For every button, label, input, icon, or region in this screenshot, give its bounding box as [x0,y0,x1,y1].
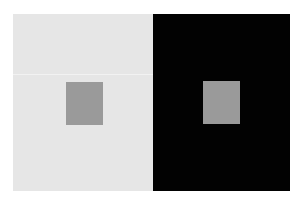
cropped-caption [40,0,270,5]
gray-swatch-on-dark [203,81,240,124]
light-background-panel [13,14,153,191]
illusion-figure [0,0,302,206]
dark-background-panel [153,14,290,191]
panel-seam [13,74,153,75]
gray-swatch-on-light [66,82,103,125]
